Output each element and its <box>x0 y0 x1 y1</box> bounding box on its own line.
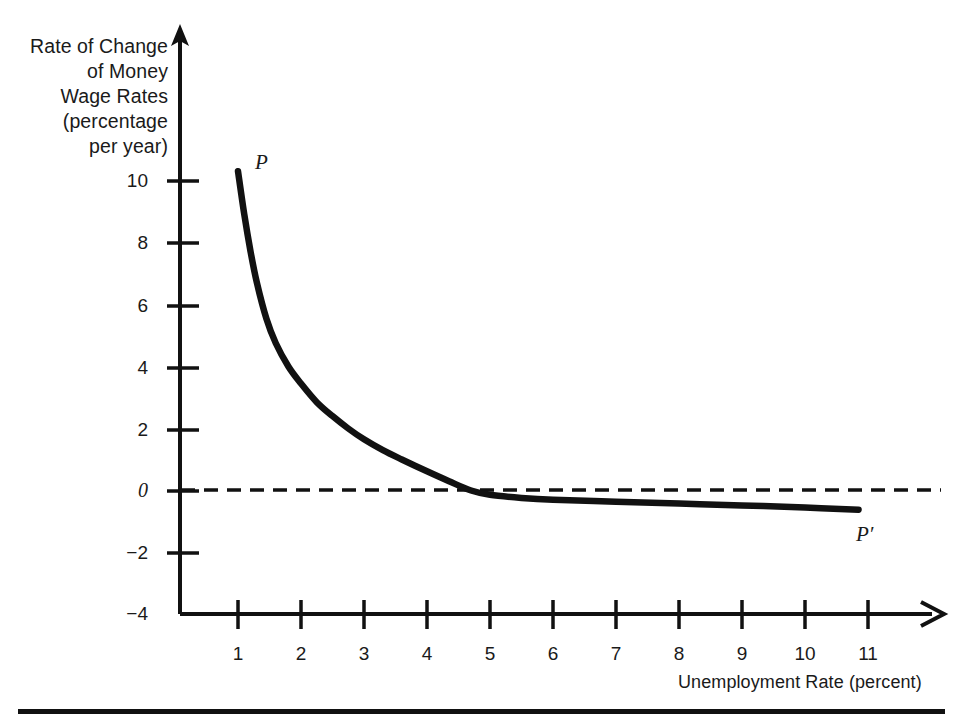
y-axis-title-line-2: of Money <box>0 59 168 84</box>
x-axis-title: Unemployment Rate (percent) <box>678 672 922 693</box>
y-tick-label-minus-2: −2 <box>92 542 148 564</box>
x-tick-label-11: 11 <box>848 643 888 665</box>
curve-end-label-P-prime: P′ <box>856 522 873 547</box>
x-tick-label-8: 8 <box>659 643 699 665</box>
y-axis-ticks <box>167 181 199 553</box>
y-tick-label-2: 2 <box>92 419 148 441</box>
x-tick-label-4: 4 <box>407 643 447 665</box>
y-tick-label-4: 4 <box>92 357 148 379</box>
x-tick-label-3: 3 <box>344 643 384 665</box>
curve-start-label-P: P <box>255 150 268 175</box>
y-axis-title-line-5: per year) <box>0 134 168 159</box>
phillips-curve-line <box>238 171 859 510</box>
x-tick-label-9: 9 <box>722 643 762 665</box>
phillips-curve-figure: Rate of Change of Money Wage Rates (perc… <box>0 0 963 728</box>
y-axis-title: Rate of Change of Money Wage Rates (perc… <box>0 34 168 159</box>
y-tick-label-8: 8 <box>92 232 148 254</box>
y-tick-label-0: 0 <box>92 479 148 502</box>
y-tick-label-minus-4: −4 <box>92 603 148 625</box>
x-tick-label-2: 2 <box>281 643 321 665</box>
x-tick-label-7: 7 <box>596 643 636 665</box>
x-tick-label-5: 5 <box>470 643 510 665</box>
y-axis-title-line-4: (percentage <box>0 109 168 134</box>
y-axis-title-line-1: Rate of Change <box>0 34 168 59</box>
y-tick-label-6: 6 <box>92 295 148 317</box>
x-tick-label-6: 6 <box>533 643 573 665</box>
y-axis-title-line-3: Wage Rates <box>0 84 168 109</box>
x-tick-label-1: 1 <box>218 643 258 665</box>
x-tick-label-10: 10 <box>785 643 825 665</box>
bottom-divider-rule <box>18 709 945 714</box>
y-tick-label-10: 10 <box>92 170 148 192</box>
